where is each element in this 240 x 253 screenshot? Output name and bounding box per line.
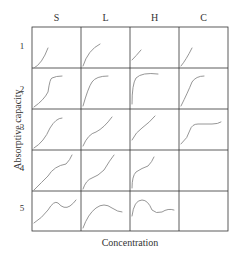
curve-4-h: [132, 157, 154, 188]
curve-2-s: [34, 76, 62, 107]
curve-2-h: [132, 74, 158, 105]
curve-1-h: [132, 50, 141, 60]
curve-4-l: [83, 155, 114, 189]
curve-1-s: [34, 48, 48, 68]
curve-2-l: [83, 76, 108, 106]
isotherm-grid: [0, 0, 240, 253]
curve-5-h: [132, 200, 174, 216]
curve-1-c: [181, 48, 192, 66]
curve-2-c: [181, 76, 204, 106]
curve-3-l: [83, 117, 112, 146]
x-axis-label: Concentration: [32, 237, 228, 248]
curve-3-s: [34, 118, 62, 148]
curve-5-s: [34, 200, 76, 223]
curve-1-l: [83, 44, 100, 66]
curve-3-c: [181, 122, 221, 144]
curve-5-l: [83, 205, 122, 228]
curve-3-h: [132, 116, 155, 140]
curve-4-s: [34, 155, 72, 190]
